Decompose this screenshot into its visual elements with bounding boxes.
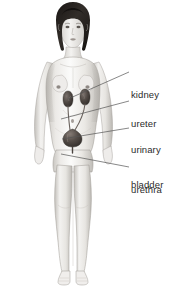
label-urethra-line-1: urethra <box>131 184 162 196</box>
breast-left <box>52 75 67 92</box>
label-urethra: urethra <box>131 161 162 219</box>
head <box>56 2 90 51</box>
leg-left <box>55 165 72 272</box>
navel <box>71 119 74 123</box>
urinary-system-figure: kidney ureter urinary bladder urethra <box>0 0 177 289</box>
label-urinary-bladder-line-1: urinary <box>131 144 163 156</box>
eye-right <box>77 26 81 28</box>
eye-left <box>66 26 70 28</box>
leg-right <box>74 165 91 272</box>
